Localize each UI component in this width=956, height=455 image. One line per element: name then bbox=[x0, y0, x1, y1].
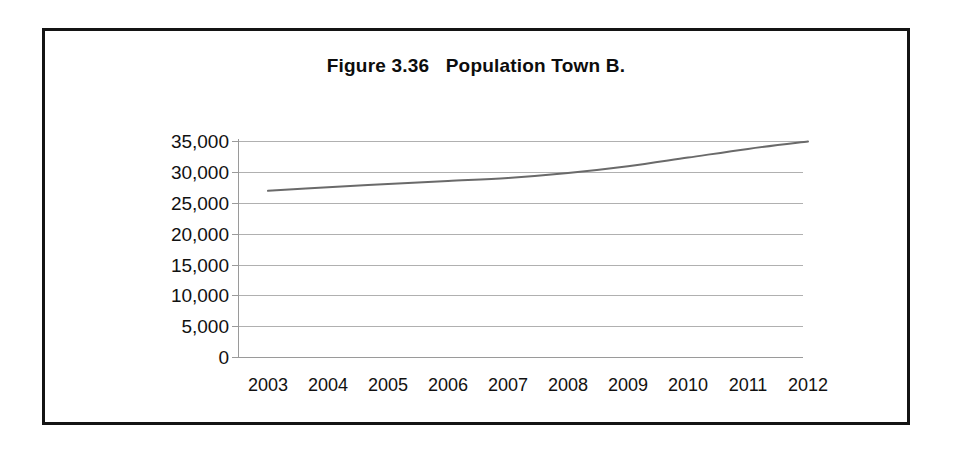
x-tick-label-2007: 2007 bbox=[488, 375, 528, 396]
figure-frame: Figure 3.36 Population Town B. bbox=[42, 28, 910, 425]
gridlines bbox=[238, 142, 803, 327]
y-axis-tick-labels: 35,000 30,000 25,000 20,000 15,000 10,00… bbox=[107, 31, 229, 428]
x-tick-label-2004: 2004 bbox=[308, 375, 348, 396]
x-tick-label-2003: 2003 bbox=[248, 375, 288, 396]
line-chart: 35,000 30,000 25,000 20,000 15,000 10,00… bbox=[45, 31, 913, 428]
x-tick-label-2008: 2008 bbox=[548, 375, 588, 396]
x-tick-label-2010: 2010 bbox=[668, 375, 708, 396]
x-tick-label-2011: 2011 bbox=[729, 375, 768, 396]
x-tick-label-2012: 2012 bbox=[788, 375, 828, 396]
x-tick-label-2009: 2009 bbox=[608, 375, 648, 396]
y-tick-label-0: 0 bbox=[218, 348, 229, 367]
y-tick-label-5000: 5,000 bbox=[181, 317, 229, 336]
x-tick-label-2006: 2006 bbox=[428, 375, 468, 396]
y-tick-label-35000: 35,000 bbox=[171, 132, 229, 151]
y-tick-label-15000: 15,000 bbox=[171, 256, 229, 275]
data-series-line-population-town-b bbox=[268, 142, 808, 191]
y-axis-ticks bbox=[232, 142, 238, 358]
y-tick-label-10000: 10,000 bbox=[171, 286, 229, 305]
y-tick-label-25000: 25,000 bbox=[171, 194, 229, 213]
y-tick-label-20000: 20,000 bbox=[171, 225, 229, 244]
x-axis-tick-labels: 2003 2004 2005 2006 2007 2008 2009 2010 … bbox=[45, 375, 913, 405]
x-tick-label-2005: 2005 bbox=[368, 375, 408, 396]
y-tick-label-30000: 30,000 bbox=[171, 163, 229, 182]
